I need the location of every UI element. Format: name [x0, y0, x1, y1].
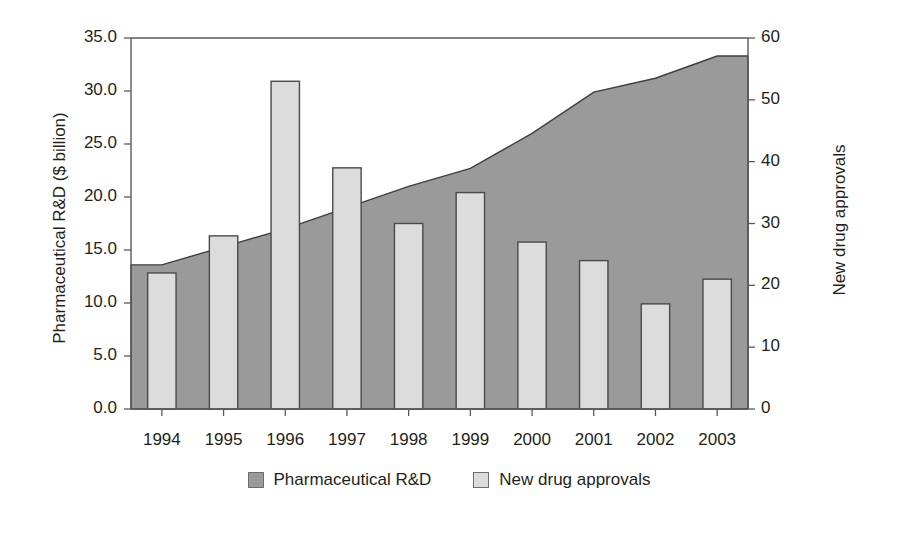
bar-new-drug-approvals-1997 [333, 168, 361, 409]
legend-swatch-icon-pharmaceutical-rd [248, 472, 264, 488]
left-axis-tick-label-30.0: 30.0 [47, 80, 117, 100]
bar-new-drug-approvals-1998 [394, 224, 422, 410]
right-axis-title: New drug approvals [830, 90, 850, 350]
left-axis-tick-label-35.0: 35.0 [47, 27, 117, 47]
left-axis-tick-label-25.0: 25.0 [47, 133, 117, 153]
legend-item-new-drug-approvals: New drug approvals [473, 470, 650, 490]
right-axis-tick-label-60: 60 [761, 27, 821, 47]
chart-legend: Pharmaceutical R&D New drug approvals [0, 470, 898, 490]
legend-label-pharmaceutical-rd: Pharmaceutical R&D [274, 470, 432, 490]
x-axis-tick-label-2001: 2001 [559, 430, 629, 450]
bar-new-drug-approvals-1999 [456, 193, 484, 409]
legend-item-pharmaceutical-rd: Pharmaceutical R&D [248, 470, 432, 490]
left-axis-tick-label-5.0: 5.0 [47, 345, 117, 365]
right-axis-tick-label-10: 10 [761, 336, 821, 356]
x-axis-tick-label-1994: 1994 [127, 430, 197, 450]
bar-new-drug-approvals-2003 [703, 279, 731, 409]
bar-new-drug-approvals-2001 [580, 261, 608, 409]
x-axis-tick-label-2000: 2000 [497, 430, 567, 450]
chart-canvas [0, 0, 898, 544]
right-axis-tick-label-20: 20 [761, 274, 821, 294]
x-axis-tick-label-1995: 1995 [189, 430, 259, 450]
left-axis-tick-label-20.0: 20.0 [47, 186, 117, 206]
x-axis-tick-label-1996: 1996 [250, 430, 320, 450]
x-axis-tick-label-1998: 1998 [374, 430, 444, 450]
left-axis-tick-label-0.0: 0.0 [47, 398, 117, 418]
left-axis-tick-label-15.0: 15.0 [47, 239, 117, 259]
right-axis-tick-label-0: 0 [761, 398, 821, 418]
left-axis-tick-label-10.0: 10.0 [47, 292, 117, 312]
x-axis-tick-label-2003: 2003 [682, 430, 752, 450]
right-axis-tick-label-40: 40 [761, 151, 821, 171]
bar-new-drug-approvals-1995 [209, 236, 237, 409]
x-axis-tick-label-2002: 2002 [620, 430, 690, 450]
x-axis-tick-label-1997: 1997 [312, 430, 382, 450]
x-axis-tick-label-1999: 1999 [435, 430, 505, 450]
right-axis-tick-label-50: 50 [761, 89, 821, 109]
bar-new-drug-approvals-1996 [271, 81, 299, 409]
bar-new-drug-approvals-2000 [518, 242, 546, 409]
legend-swatch-icon-new-drug-approvals [473, 472, 489, 488]
right-axis-tick-label-30: 30 [761, 213, 821, 233]
legend-label-new-drug-approvals: New drug approvals [499, 470, 650, 490]
bar-new-drug-approvals-1994 [148, 273, 176, 409]
bar-new-drug-approvals-2002 [641, 304, 669, 409]
